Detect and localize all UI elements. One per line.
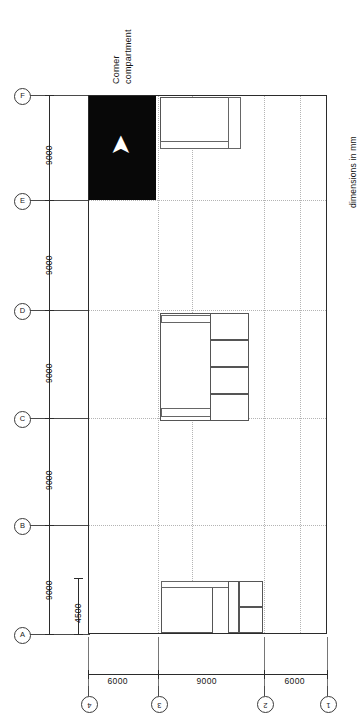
gridline-row-B <box>89 525 326 526</box>
middle-cell-3[interactable] <box>210 367 249 394</box>
grid-leader-4 <box>88 686 89 696</box>
grid-bubble-1[interactable]: 1 <box>320 696 337 713</box>
middle-block-top-bar <box>161 315 211 323</box>
dim-tick-col-2 <box>264 670 265 679</box>
gridline-column-3 <box>158 96 159 633</box>
bottom-block-top-strip <box>161 581 233 588</box>
units-note: dimensions in mm <box>348 136 358 208</box>
dim-tick-E <box>45 200 54 201</box>
grid-leader-3 <box>158 686 159 696</box>
ext-line-2 <box>264 637 265 687</box>
ext-line-1 <box>327 637 328 687</box>
dim-label-4500: 4500 <box>73 603 83 623</box>
grid-bubble-3[interactable]: 3 <box>151 696 168 713</box>
middle-cell-2[interactable] <box>210 340 249 367</box>
ext-line-3 <box>158 637 159 687</box>
grid-leader-E <box>30 200 90 201</box>
corner-compartment-label-line1: Corner <box>111 55 122 84</box>
grid-bubble-C[interactable]: C <box>14 411 31 428</box>
gridline-column-aux-b <box>300 96 301 633</box>
grid-leader-C <box>30 418 90 419</box>
gridline-row-E <box>89 200 326 201</box>
dim-label-43: 0009 <box>107 676 128 686</box>
grid-leader-B <box>30 525 90 526</box>
grid-leader-2 <box>264 686 265 696</box>
dim-tick-C <box>45 418 54 419</box>
bottom-block-mid-strip[interactable] <box>228 581 239 633</box>
dim-label-32: 0006 <box>196 676 217 686</box>
gridline-column-2 <box>264 96 265 633</box>
dim-label-BA: 9000 <box>44 580 54 600</box>
middle-block-bottom-bar <box>161 408 211 417</box>
dim-tick-col-3 <box>158 670 159 679</box>
corner-compartment-label-line2: compartment <box>123 29 134 84</box>
grid-bubble-B[interactable]: B <box>14 518 31 535</box>
dim-label-DC: 9000 <box>44 363 54 383</box>
dim-label-FE: 9000 <box>44 145 54 165</box>
dim-tick-D <box>45 310 54 311</box>
ext-line-4 <box>88 637 89 687</box>
grid-bubble-F[interactable]: F <box>14 88 31 105</box>
grid-bubble-D[interactable]: D <box>14 303 31 320</box>
grid-leader-1 <box>327 686 328 696</box>
corner-compartment-arrow-icon: ➤ <box>107 134 133 156</box>
dim-tick-4500-bottom <box>74 634 83 635</box>
dim-tick-col-1 <box>327 670 328 679</box>
dim-label-CB: 9000 <box>44 470 54 490</box>
dim-label-ED: 9000 <box>44 255 54 275</box>
top-block-right-strip <box>228 97 241 149</box>
grid-bubble-A[interactable]: A <box>14 627 31 644</box>
dim-tick-col-4 <box>88 670 89 679</box>
dim-tick-4500-top <box>74 578 83 579</box>
top-block-main[interactable] <box>160 97 234 145</box>
grid-bubble-2[interactable]: 2 <box>257 696 274 713</box>
grid-leader-D <box>30 310 90 311</box>
horizontal-dimension-line <box>88 674 327 675</box>
dim-label-21: 0009 <box>284 676 305 686</box>
dim-tick-A <box>45 634 54 635</box>
bottom-cell-2[interactable] <box>239 607 263 633</box>
middle-block-u-shape[interactable] <box>160 313 211 421</box>
middle-cell-1[interactable] <box>210 313 249 340</box>
dim-tick-B <box>45 525 54 526</box>
bottom-block-main[interactable] <box>161 581 213 633</box>
corner-compartment-fill[interactable]: ➤ <box>89 96 156 200</box>
dim-tick-F <box>45 95 54 96</box>
bottom-cell-1[interactable] <box>239 581 263 607</box>
grid-bubble-4[interactable]: 4 <box>81 696 98 713</box>
middle-cell-4[interactable] <box>210 394 249 421</box>
grid-bubble-E[interactable]: E <box>14 193 31 210</box>
gridline-row-D <box>89 310 326 311</box>
floor-plan-drawing: dimensions in mm Corner compartment F E … <box>0 0 363 723</box>
